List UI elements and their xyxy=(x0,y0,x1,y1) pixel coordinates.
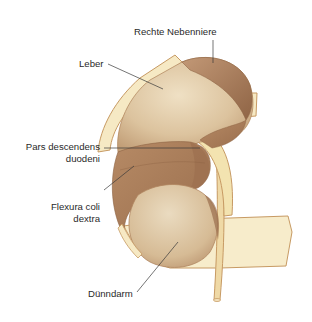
label-text-line-2: dextra xyxy=(18,213,100,225)
label-text-line-1: Flexura coli xyxy=(18,201,100,213)
label-rechte-nebenniere: Rechte Nebenniere xyxy=(134,26,217,38)
label-text: Rechte Nebenniere xyxy=(134,26,217,37)
label-duenndarm: Dünndarm xyxy=(88,288,133,300)
label-pars-descendens-duodeni: Pars descendens duodeni xyxy=(18,141,100,165)
label-text: Dünndarm xyxy=(88,288,133,299)
label-text-line-2: duodeni xyxy=(18,153,100,165)
small-intestine-lobe xyxy=(129,184,219,267)
label-flexura-coli-dextra: Flexura coli dextra xyxy=(18,201,100,225)
label-text: Leber xyxy=(79,58,104,69)
kidney-anatomy-figure: Rechte Nebenniere Leber Pars descendens … xyxy=(0,0,312,322)
label-text-line-1: Pars descendens xyxy=(18,141,100,153)
label-leber: Leber xyxy=(79,58,104,70)
